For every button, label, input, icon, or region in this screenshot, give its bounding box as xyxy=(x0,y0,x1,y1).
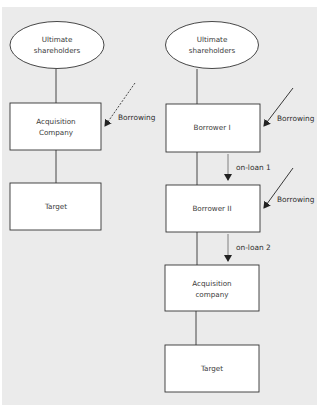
onloan2-label: on-loan 2 xyxy=(236,243,271,252)
left-borrowing-arrow: Borrowing xyxy=(105,83,156,126)
onloan1-label: on-loan 1 xyxy=(236,163,271,172)
right-borrowing1-arrow: Borrowing xyxy=(264,88,315,126)
right-borrowing2-arrow: Borrowing xyxy=(264,168,315,208)
right-borrowing2-label: Borrowing xyxy=(277,195,315,204)
right-shareholders-line2: shareholders xyxy=(189,46,236,55)
onloan1-arrow: on-loan 1 xyxy=(228,154,271,180)
right-shareholders-node: Ultimate shareholders xyxy=(166,22,259,69)
borrower2-label: Borrower II xyxy=(192,204,231,213)
right-acquisition-line1: Acquisition xyxy=(192,279,231,288)
right-acquisition-line2: company xyxy=(195,290,229,299)
right-acquisition-node: Acquisition company xyxy=(165,265,259,311)
left-acquisition-node: Acquisition Company xyxy=(10,103,101,150)
left-acquisition-line1: Acquisition xyxy=(36,117,75,126)
left-borrowing-label: Borrowing xyxy=(118,113,156,122)
right-shareholders-line1: Ultimate xyxy=(197,35,228,44)
left-target-node: Target xyxy=(10,183,101,230)
left-target-label: Target xyxy=(44,202,67,211)
borrower2-node: Borrower II xyxy=(166,185,260,232)
right-target-node: Target xyxy=(165,345,259,392)
borrower1-node: Borrower I xyxy=(166,104,260,152)
left-shareholders-line2: shareholders xyxy=(34,46,81,55)
right-structure: Ultimate shareholders Borrower I Borrowi… xyxy=(165,22,315,393)
onloan2-arrow: on-loan 2 xyxy=(228,234,271,261)
left-structure: Ultimate shareholders Acquisition Compan… xyxy=(10,22,156,231)
right-borrowing1-label: Borrowing xyxy=(277,114,315,123)
financing-structure-diagram: Ultimate shareholders Acquisition Compan… xyxy=(0,0,320,409)
right-target-label: Target xyxy=(200,364,223,373)
left-shareholders-node: Ultimate shareholders xyxy=(10,22,104,69)
left-acquisition-line2: Company xyxy=(39,128,74,137)
borrower1-label: Borrower I xyxy=(193,123,230,132)
left-shareholders-line1: Ultimate xyxy=(42,35,73,44)
